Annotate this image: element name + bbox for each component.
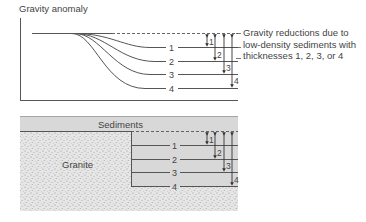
layer-label: 3 [172, 168, 177, 178]
arrow-label: 4 [234, 76, 239, 86]
arrow-label: 3 [226, 161, 231, 171]
arrow-label: 1 [209, 37, 214, 47]
curve-label: 3 [169, 70, 174, 80]
curve-label: 4 [169, 84, 174, 94]
arrow-label: 3 [226, 63, 231, 73]
arrow-label: 2 [217, 148, 222, 158]
top-panel: 1 2 3 4 1 2 3 4 [20, 18, 241, 101]
curve-3 [75, 34, 166, 75]
layer-label: 2 [172, 155, 177, 165]
bottom-panel: Sediments Granite 1 2 3 4 1 2 3 4 [20, 116, 239, 211]
layer-label: 4 [172, 182, 177, 192]
layer-label: 1 [172, 141, 177, 151]
curve-label: 2 [169, 57, 174, 67]
curve-label: 1 [169, 43, 174, 53]
granite-label: Granite [62, 159, 93, 170]
arrow-label: 1 [209, 135, 214, 145]
gravity-diagram: 1 2 3 4 1 2 3 4 [0, 0, 366, 222]
arrow-label: 2 [217, 50, 222, 60]
note-leader-ticks [236, 34, 241, 59]
arrow-label: 4 [234, 175, 239, 185]
sediments-label: Sediments [98, 119, 143, 130]
